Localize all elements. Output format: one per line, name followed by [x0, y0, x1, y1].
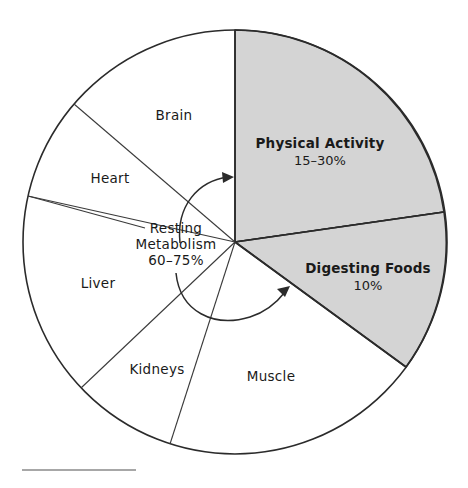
label-resting-metabolism-value: 60–75% — [148, 252, 204, 268]
label-digesting-foods-name: Digesting Foods — [305, 260, 431, 276]
pie-chart-figure: Brain Heart Liver Kidneys Muscle Resting… — [0, 0, 468, 488]
label-resting-metabolism-line1: Resting — [150, 220, 202, 236]
label-resting-metabolism-line2: Metabolism — [135, 236, 216, 252]
label-heart: Heart — [90, 170, 129, 186]
label-liver: Liver — [81, 275, 116, 291]
label-physical-activity-value: 15–30% — [294, 153, 346, 168]
label-physical-activity-name: Physical Activity — [255, 135, 384, 151]
label-muscle: Muscle — [247, 368, 296, 384]
label-digesting-foods-value: 10% — [354, 278, 383, 293]
pie-chart-svg: Brain Heart Liver Kidneys Muscle Resting… — [0, 0, 468, 488]
label-kidneys: Kidneys — [129, 361, 184, 377]
label-brain: Brain — [156, 107, 193, 123]
